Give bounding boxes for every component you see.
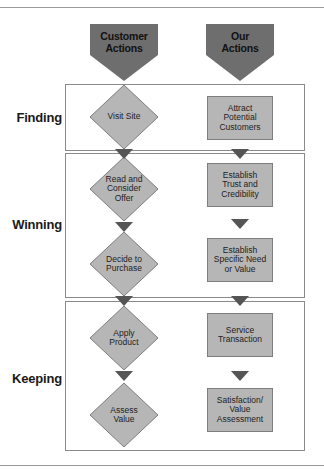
down-arrow-icon — [115, 371, 133, 381]
stage-label-finding: Finding — [0, 110, 62, 125]
header-label-line: Actions — [90, 42, 158, 54]
down-arrow-icon — [231, 219, 249, 229]
step-text: Purchase — [106, 264, 142, 274]
step-text: or Value — [214, 265, 266, 275]
step-attract-potential-customers: Attract Potential Customers — [207, 96, 273, 140]
step-service-transaction: Service Transaction — [207, 313, 273, 357]
step-text: Visit Site — [108, 112, 141, 122]
down-arrow-icon — [231, 296, 249, 306]
header-customer-actions: Customer Actions — [90, 24, 158, 80]
step-text: Offer — [106, 194, 143, 204]
down-arrow-icon — [115, 296, 133, 306]
step-establish-specific-need: Establish Specific Need or Value — [207, 238, 273, 282]
step-establish-trust: Establish Trust and Credibility — [207, 163, 273, 207]
step-assess-value: Assess Value — [90, 383, 158, 447]
step-visit-site: Visit Site — [90, 85, 158, 149]
step-text: Credibility — [221, 190, 258, 200]
step-text: Customers — [219, 123, 260, 133]
down-arrow-icon — [115, 222, 133, 232]
step-text: Product — [109, 338, 138, 348]
header-label-line: Actions — [206, 42, 274, 54]
header-our-actions: Our Actions — [206, 24, 274, 80]
stage-label-winning: Winning — [0, 217, 62, 232]
step-satisfaction-value-assessment: Satisfaction/ Value Assessment — [207, 388, 273, 432]
step-apply-product: Apply Product — [90, 306, 158, 370]
top-rule — [0, 7, 324, 8]
header-label-line: Customer — [90, 30, 158, 42]
step-text: Transaction — [218, 335, 262, 345]
header-label-line: Our — [206, 30, 274, 42]
step-decide-to-purchase: Decide to Purchase — [90, 232, 158, 296]
step-text: Value — [110, 415, 137, 425]
step-read-consider-offer: Read and Consider Offer — [90, 157, 158, 221]
stage-label-keeping: Keeping — [0, 371, 62, 386]
step-text: Assessment — [217, 415, 263, 425]
down-arrow-icon — [231, 371, 249, 381]
bottom-rule — [0, 465, 324, 466]
down-arrow-icon — [231, 149, 249, 159]
down-arrow-icon — [115, 149, 133, 159]
